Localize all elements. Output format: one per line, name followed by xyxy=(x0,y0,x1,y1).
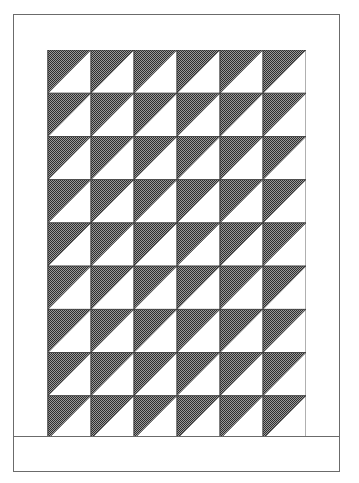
right-border-strip xyxy=(304,50,339,437)
quilt-diagram xyxy=(13,14,340,472)
triangle-grid-graphic xyxy=(48,50,306,439)
bottom-border-band xyxy=(14,436,339,471)
top-border-band xyxy=(14,15,339,51)
triangle-block-grid xyxy=(48,50,306,439)
left-border-strip xyxy=(14,50,48,437)
